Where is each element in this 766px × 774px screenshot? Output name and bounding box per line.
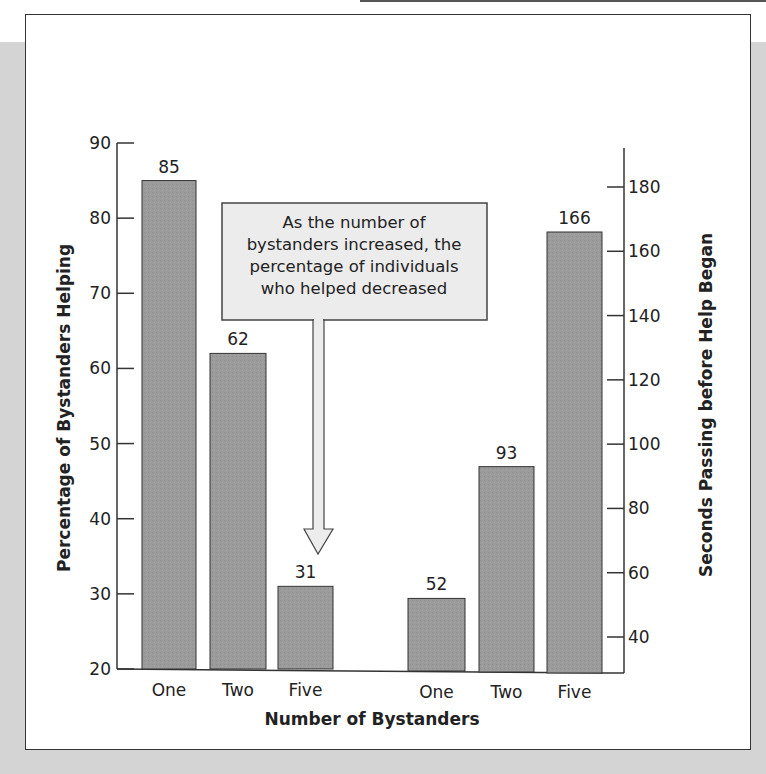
right-y-ticks: 406080100120140160180 (607, 177, 660, 647)
right-tick-label: 180 (628, 177, 660, 197)
bar-left-one (142, 181, 196, 669)
right-tick-label: 120 (628, 370, 660, 390)
category-label: Five (558, 682, 592, 702)
right-tick-label: 140 (628, 306, 660, 326)
left-tick-label: 80 (89, 208, 111, 228)
right-tick-label: 60 (628, 563, 650, 583)
bar-right-two (479, 467, 534, 672)
category-labels: OneTwoFiveOneTwoFive (152, 680, 592, 702)
right-y-axis: 406080100120140160180 (604, 148, 660, 673)
bar-value-label: 52 (426, 574, 448, 594)
left-tick-label: 60 (89, 358, 111, 378)
category-label: Two (221, 680, 254, 700)
bar-left-five (278, 586, 333, 669)
right-y-axis-title: Seconds Passing before Help Began (696, 233, 716, 577)
bar-value-label: 62 (227, 329, 249, 349)
left-tick-label: 90 (89, 133, 111, 153)
left-tick-label: 40 (89, 509, 111, 529)
bystander-chart: 2030405060708090 406080100120140160180 8… (0, 0, 766, 774)
left-y-axis-title: Percentage of Bystanders Helping (54, 244, 74, 572)
bar-value-label: 85 (158, 157, 180, 177)
right-tick-label: 100 (628, 434, 660, 454)
bar-value-label: 31 (295, 562, 317, 582)
left-tick-label: 20 (89, 659, 111, 679)
right-tick-label: 40 (628, 627, 650, 647)
right-tick-label: 160 (628, 241, 660, 261)
left-y-axis: 2030405060708090 (89, 133, 134, 679)
x-axis-title: Number of Bystanders (264, 709, 479, 729)
category-label: Five (289, 680, 323, 700)
left-tick-label: 50 (89, 434, 111, 454)
category-label: One (152, 680, 187, 700)
right-tick-label: 80 (628, 498, 650, 518)
bar-left-two (210, 353, 266, 669)
bar-value-label: 93 (496, 443, 518, 463)
left-y-ticks: 2030405060708090 (89, 133, 134, 679)
left-tick-label: 30 (89, 584, 111, 604)
bar-right-one (408, 598, 465, 671)
bar-right-five (547, 232, 602, 673)
bar-value-label: 166 (558, 208, 590, 228)
left-tick-label: 70 (89, 283, 111, 303)
category-label: Two (490, 682, 523, 702)
category-label: One (419, 682, 454, 702)
